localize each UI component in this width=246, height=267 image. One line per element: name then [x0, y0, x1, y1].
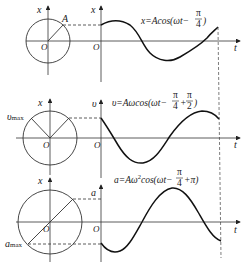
svg-text:π: π	[177, 167, 182, 177]
graph-axis-x-label: x	[90, 4, 96, 15]
equation-acceleration: a=Aω2cos(ωt− π 4 +π)	[114, 167, 198, 188]
svg-text:): )	[202, 16, 206, 27]
point-a-label: A	[61, 13, 69, 24]
eq-a-lhs: a=Aω2cos(ωt−	[114, 173, 173, 186]
reference-circle-1: x A O	[26, 4, 95, 75]
graph-displacement: x O t x=Acos(ωt− π 4 )	[90, 4, 240, 82]
circle-origin-label: O	[43, 224, 50, 234]
equation-velocity: υ=Aωcos(ωt− π 4 + π 2 )	[112, 90, 197, 111]
reference-circle-3: x amax O	[5, 175, 95, 262]
phasor-diagram: x A O x O t x=Acos(ωt− π 4 )	[0, 0, 246, 267]
graph-axis-a-label: a	[91, 187, 96, 198]
circle-axis-x-label: x	[36, 4, 42, 15]
circle-origin-label: O	[43, 140, 50, 150]
circle-origin-label: O	[41, 42, 48, 52]
graph-velocity: υ O t υ=Aωcos(ωt− π 4 + π 2 )	[92, 90, 240, 178]
svg-text:x=Acos(ωt−: x=Acos(ωt−	[140, 16, 189, 27]
svg-text:π: π	[187, 90, 192, 100]
time-axis-label: t	[234, 139, 237, 150]
svg-text:π: π	[196, 8, 201, 18]
panel-acceleration: x amax O a O t a=Aω2cos(ωt− π 4 +π)	[5, 167, 240, 262]
panel-displacement: x A O x O t x=Acos(ωt− π 4 )	[26, 4, 240, 82]
svg-text:4: 4	[173, 101, 178, 111]
svg-text:2: 2	[187, 101, 192, 111]
svg-text:4: 4	[177, 178, 182, 188]
time-axis-label: t	[234, 224, 237, 235]
graph-origin-label: O	[93, 224, 100, 234]
graph-origin-label: O	[94, 140, 101, 150]
svg-text:υ=Aωcos(ωt−: υ=Aωcos(ωt−	[112, 98, 167, 109]
graph-origin-label: O	[93, 42, 100, 52]
svg-text:+π): +π)	[184, 175, 198, 186]
circle-axis-x-label: x	[37, 97, 43, 108]
panel-velocity: x υmax O υ O t υ=Aωcos(ωt− π 4 + π 2 )	[7, 90, 240, 178]
svg-text:+: +	[180, 98, 186, 108]
vmax-label: υmax	[7, 111, 24, 122]
circle-axis-x-label: x	[37, 175, 43, 186]
amax-label: amax	[5, 238, 23, 249]
svg-text:π: π	[173, 90, 178, 100]
equation-displacement: x=Acos(ωt− π 4 )	[140, 8, 206, 29]
svg-text:4: 4	[196, 19, 201, 29]
period-guide-line	[218, 27, 221, 258]
time-axis-label: t	[234, 42, 237, 53]
svg-text:): )	[193, 98, 197, 109]
graph-acceleration: a O t a=Aω2cos(ωt− π 4 +π)	[91, 167, 240, 262]
reference-circle-2: x υmax O	[7, 97, 95, 175]
graph-axis-v-label: υ	[92, 98, 97, 109]
